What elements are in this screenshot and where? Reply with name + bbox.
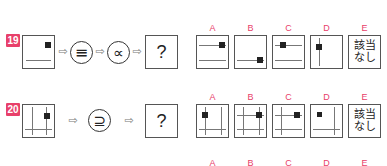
option-label-a: A (196, 158, 229, 166)
option-label-a: A (196, 92, 229, 102)
marker-square (280, 42, 286, 48)
arrow-right-icon: ⇨ (94, 46, 106, 58)
option-c[interactable] (272, 104, 305, 138)
question-number-badge: 19 (6, 34, 20, 47)
option-b[interactable] (234, 104, 267, 138)
option-b[interactable] (234, 35, 267, 69)
none-text-line2: なし (354, 121, 376, 133)
option-label-b: B (234, 92, 267, 102)
none-text: 該当 なし (349, 105, 380, 137)
horizontal-line (199, 60, 226, 61)
vertical-line (243, 107, 244, 135)
operator-symbol: ⊇ (93, 112, 106, 130)
horizontal-line (26, 60, 51, 61)
question-mark: ? (146, 36, 177, 68)
option-d[interactable] (310, 35, 343, 69)
source-figure (22, 104, 55, 138)
horizontal-line (237, 129, 264, 130)
question-number-badge: 20 (6, 103, 20, 116)
option-label-b: B (234, 158, 267, 166)
question-mark: ? (146, 105, 177, 137)
none-text-line2: なし (354, 52, 376, 64)
marker-square (45, 42, 51, 48)
option-e-none[interactable]: 該当 なし (348, 104, 381, 138)
option-label-c: C (272, 158, 305, 166)
option-a[interactable] (196, 104, 229, 138)
option-label-d: D (310, 158, 343, 166)
marker-square (44, 113, 50, 119)
horizontal-line (275, 60, 302, 61)
answer-box: ? (145, 104, 178, 138)
option-label-c: C (272, 23, 305, 33)
option-label-e: E (348, 23, 381, 33)
arrow-right-icon: ⇨ (67, 115, 79, 127)
vertical-line (46, 107, 47, 135)
option-label-e: E (348, 158, 381, 166)
marker-square (219, 42, 225, 48)
operator-symbol: ≡ (75, 43, 88, 62)
arrow-right-icon: ⇨ (123, 115, 135, 127)
marker-square (202, 112, 208, 118)
horizontal-line (313, 129, 340, 130)
arrow-right-icon: ⇨ (57, 46, 69, 58)
horizontal-line (199, 129, 226, 130)
vertical-line (334, 107, 335, 135)
operator-equivalence-icon: ≡ (70, 41, 93, 64)
operator-superset-icon: ⊇ (88, 109, 111, 132)
option-label-b: B (234, 23, 267, 33)
option-label-e: E (348, 92, 381, 102)
option-label-a: A (196, 23, 229, 33)
option-e-none[interactable]: 該当 なし (348, 35, 381, 69)
option-label-d: D (310, 92, 343, 102)
arrow-right-icon: ⇨ (131, 46, 143, 58)
operator-proportional-icon: ∝ (107, 41, 130, 64)
option-label-c: C (272, 92, 305, 102)
option-d[interactable] (310, 104, 343, 138)
horizontal-line (275, 129, 302, 130)
marker-square (294, 112, 300, 118)
vertical-line (221, 107, 222, 135)
source-figure (22, 35, 55, 69)
horizontal-line (25, 129, 52, 130)
marker-square (256, 112, 262, 118)
vertical-line (32, 107, 33, 135)
vertical-line (281, 107, 282, 135)
option-c[interactable] (272, 35, 305, 69)
option-a[interactable] (196, 35, 229, 69)
operator-symbol: ∝ (113, 44, 124, 62)
marker-square (316, 44, 322, 50)
vertical-line (319, 38, 320, 66)
none-text: 該当 なし (349, 36, 380, 68)
marker-square (257, 57, 263, 63)
option-label-d: D (310, 23, 343, 33)
marker-square (317, 112, 322, 117)
answer-box: ? (145, 35, 178, 69)
